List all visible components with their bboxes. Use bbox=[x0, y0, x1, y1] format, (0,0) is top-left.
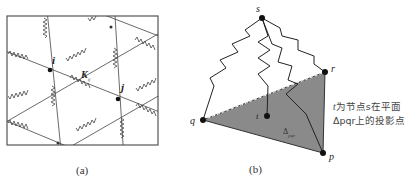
caption-a: (a) bbox=[76, 165, 88, 176]
projection-note: t为节点s在平面 Δpqr上的投影点 bbox=[333, 100, 405, 127]
panel-b-projection bbox=[200, 15, 328, 156]
triangle-subscript: pqr bbox=[288, 133, 295, 138]
node-r-dot bbox=[322, 69, 328, 75]
node-j-dot bbox=[116, 97, 121, 102]
caption-b: (b) bbox=[249, 164, 262, 175]
note-line-2: Δpqr上的投影点 bbox=[333, 114, 405, 127]
node-t-dot bbox=[264, 113, 270, 119]
label-k-main: K bbox=[81, 69, 88, 80]
label-node-s: s bbox=[256, 4, 260, 14]
label-triangle: Δpqr bbox=[283, 128, 295, 138]
node-top-dot bbox=[110, 26, 113, 29]
spring-s-r bbox=[262, 18, 325, 72]
label-node-t: t bbox=[256, 112, 259, 121]
label-spring-k: Kij bbox=[81, 70, 90, 82]
node-q-dot bbox=[200, 117, 206, 123]
label-node-j: j bbox=[121, 82, 124, 93]
label-node-p: p bbox=[329, 152, 334, 162]
label-k-subscript: ij bbox=[88, 77, 91, 82]
label-node-q: q bbox=[190, 116, 195, 126]
label-node-i: i bbox=[52, 55, 55, 66]
node-bottom-dot bbox=[57, 142, 60, 145]
node-p-dot bbox=[320, 150, 326, 156]
label-node-r: r bbox=[331, 64, 335, 74]
node-s-dot bbox=[259, 15, 265, 21]
diagram-canvas bbox=[0, 0, 420, 184]
node-i-dot bbox=[48, 68, 53, 73]
note-line-1: t为节点s在平面 bbox=[333, 100, 405, 114]
triangle-pqr bbox=[203, 72, 325, 153]
panel-a-spring-lattice bbox=[0, 0, 200, 170]
note-line-1-text: 为节点s在平面 bbox=[336, 101, 401, 112]
